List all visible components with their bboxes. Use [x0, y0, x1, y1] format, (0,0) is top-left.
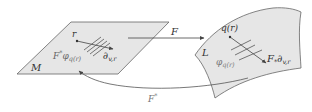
point-r-dot — [76, 40, 78, 42]
point-q-dot — [229, 36, 231, 38]
manifold-l-surface — [195, 8, 301, 98]
label-vector-l-f: F — [267, 53, 274, 64]
label-map-f-star: F* — [148, 93, 158, 104]
label-l: L — [202, 48, 209, 58]
label-vector-m-sub: v,r — [108, 55, 116, 63]
diagram-canvas: M L F F* r q(r) ∂v,r F*∂v,r F*φq(r) φq(r… — [0, 0, 312, 112]
label-point-q: q(r) — [221, 24, 238, 33]
label-vector-l: F*∂v,r — [267, 54, 290, 66]
label-map-f: F — [171, 27, 178, 37]
label-form-m-sub: q(r) — [69, 55, 81, 63]
label-form-m: F*φq(r) — [53, 50, 81, 63]
label-vector-m: ∂v,r — [103, 51, 116, 63]
label-vector-l-sub: v,r — [282, 58, 290, 66]
label-form-l-sub: q(r) — [222, 61, 234, 69]
label-form-l: φq(r) — [216, 58, 235, 69]
label-map-f-star-sup: * — [154, 92, 157, 100]
label-m: M — [31, 63, 41, 73]
label-point-r: r — [72, 30, 76, 39]
